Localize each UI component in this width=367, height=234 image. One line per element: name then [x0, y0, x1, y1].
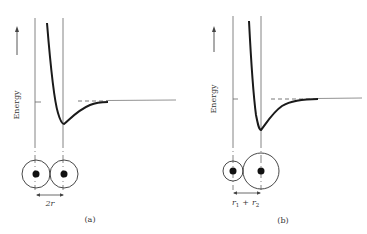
potential-energy-figure: Energy 2r (a): [0, 0, 367, 234]
atom-right: [50, 160, 78, 188]
panel-b: Energy r1+r2 (b): [209, 16, 362, 225]
asymptote-solid: [316, 98, 362, 99]
panel-caption: (a): [84, 215, 95, 224]
separation-label: 2r: [45, 199, 56, 208]
separation-label: r1+r2: [232, 198, 259, 208]
asymptote-solid: [106, 100, 176, 101]
energy-axis-label: Energy: [12, 90, 21, 120]
panel-caption: (b): [277, 216, 288, 225]
separation-dimension: [36, 193, 64, 196]
separation-dimension: [233, 191, 261, 194]
panel-a: Energy 2r (a): [12, 18, 176, 224]
atom-left: [22, 160, 50, 188]
potential-curve: [47, 23, 108, 124]
energy-axis-label: Energy: [209, 84, 218, 114]
potential-curve: [249, 21, 318, 130]
up-arrow-icon: [212, 26, 216, 52]
up-arrow-icon: [15, 26, 19, 55]
